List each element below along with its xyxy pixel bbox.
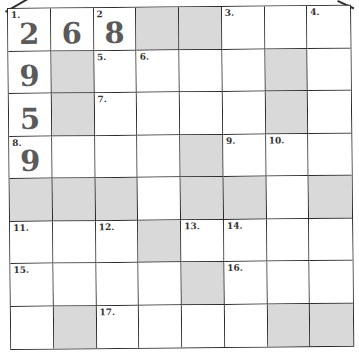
grid-cell[interactable] (139, 262, 182, 305)
shaded-cell (138, 220, 181, 263)
grid-cell[interactable] (222, 49, 265, 92)
grid-cell[interactable] (225, 304, 268, 347)
shaded-cell (180, 134, 223, 177)
grid-cell[interactable] (53, 263, 96, 306)
shaded-cell (51, 51, 94, 94)
grid-cell[interactable]: 9 (8, 51, 51, 94)
grid-cell[interactable]: 10. (266, 134, 309, 177)
shaded-cell (52, 178, 95, 221)
cell-digit: 6 (51, 19, 93, 48)
clue-number: 16. (227, 263, 243, 273)
grid-cell[interactable]: 5. (94, 50, 137, 93)
grid-cell[interactable] (137, 92, 180, 135)
cell-digit: 5 (9, 104, 51, 133)
clue-number: 14. (227, 220, 243, 230)
clue-number: 3. (225, 8, 235, 18)
cell-digit: 9 (9, 62, 51, 91)
shaded-cell (267, 304, 310, 347)
clue-number: 5. (97, 52, 107, 62)
grid-cell[interactable] (52, 136, 95, 179)
grid-cell[interactable] (308, 133, 351, 176)
grid-cell[interactable]: 6 (51, 8, 94, 51)
shaded-cell (136, 7, 179, 50)
clue-number: 7. (97, 94, 107, 104)
clue-number: 9. (226, 135, 236, 145)
grid-cell[interactable]: 17. (96, 305, 139, 348)
grid-cell[interactable] (308, 91, 351, 134)
grid-cell[interactable] (139, 305, 182, 348)
clue-number: 12. (99, 221, 115, 231)
shaded-cell (52, 93, 95, 136)
grid-cell[interactable]: 8.9 (9, 136, 52, 179)
grid-cell[interactable] (223, 92, 266, 135)
grid-cell[interactable] (53, 221, 96, 264)
grid-cell[interactable] (310, 261, 353, 304)
grid-cell[interactable]: 12. (96, 220, 139, 263)
clue-number: 15. (13, 265, 29, 275)
shaded-cell (309, 176, 352, 219)
shaded-cell (181, 262, 224, 305)
shaded-cell (179, 7, 222, 50)
grid-cell[interactable] (264, 6, 307, 49)
cell-digit: 2 (8, 19, 50, 48)
shaded-cell (54, 306, 97, 349)
grid-cell[interactable]: 13. (181, 219, 224, 262)
grid-cell[interactable] (267, 219, 310, 262)
grid-cell[interactable]: 7. (94, 93, 137, 136)
grid-cell[interactable]: 15. (10, 264, 53, 307)
shaded-cell (265, 91, 308, 134)
shaded-cell (223, 177, 266, 220)
shaded-cell (181, 177, 224, 220)
grid-cell[interactable]: 4. (307, 6, 350, 49)
grid-cell[interactable]: 14. (224, 219, 267, 262)
crossword-grid: 1.26283.4.95.6.57.8.99.10.11.12.13.14.15… (7, 5, 354, 350)
grid-cell[interactable]: 1.2 (8, 9, 51, 52)
grid-cell[interactable] (267, 261, 310, 304)
shaded-cell (95, 178, 138, 221)
shaded-cell (310, 303, 353, 346)
clue-number: 10. (269, 135, 285, 145)
clue-number: 11. (13, 222, 29, 232)
grid-cell[interactable] (308, 48, 351, 91)
cell-digit: 9 (9, 147, 51, 176)
grid-cell[interactable] (11, 306, 54, 349)
grid-cell[interactable]: 28 (94, 8, 137, 51)
clue-number: 4. (310, 7, 320, 17)
grid-cell[interactable]: 16. (224, 262, 267, 305)
shaded-cell (265, 49, 308, 92)
grid-cell[interactable]: 6. (137, 50, 180, 93)
grid-cell[interactable] (96, 263, 139, 306)
grid-cell[interactable] (266, 176, 309, 219)
grid-cell[interactable] (95, 135, 138, 178)
grid-cell[interactable] (180, 92, 223, 135)
grid-cell[interactable]: 11. (10, 221, 53, 264)
clue-number: 13. (184, 221, 200, 231)
grid-cell[interactable]: 9. (223, 134, 266, 177)
grid-cell[interactable] (138, 177, 181, 220)
clue-number: 17. (99, 306, 115, 316)
clue-number: 6. (140, 51, 150, 61)
cell-digit: 8 (94, 18, 136, 47)
grid-cell[interactable]: 5 (9, 94, 52, 137)
grid-cell[interactable] (137, 135, 180, 178)
grid-cell[interactable] (179, 49, 222, 92)
grid-cell[interactable] (309, 218, 352, 261)
grid-cell[interactable]: 3. (222, 7, 265, 50)
shaded-cell (10, 179, 53, 222)
grid-cell[interactable] (182, 304, 225, 347)
